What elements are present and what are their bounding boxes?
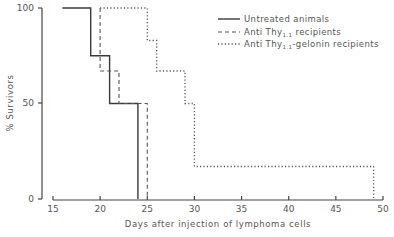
x-axis-title: Days after injection of lymphoma cells <box>125 219 311 229</box>
x-tick-50: 50 <box>377 204 389 214</box>
x-tick-40: 40 <box>283 204 295 214</box>
legend: Untreated animals Anti Thy1.1 recipients… <box>218 14 379 50</box>
y-tick-50: 50 <box>23 98 35 108</box>
x-axis: 1520253035404550 Days after injection of… <box>47 196 389 229</box>
legend-label-anti-thy-gelonin: Anti Thy1.1-gelonin recipients <box>244 39 379 50</box>
survival-chart: 100 50 0 % Survivors 1520253035404550 Da… <box>0 0 394 237</box>
y-axis-title: % Survivors <box>5 74 15 131</box>
legend-label-anti-thy: Anti Thy1.1 recipients <box>244 27 341 38</box>
x-tick-45: 45 <box>330 204 341 214</box>
x-tick-15: 15 <box>47 204 58 214</box>
x-tick-35: 35 <box>236 204 247 214</box>
y-axis: 100 50 0 % Survivors <box>5 3 42 204</box>
y-tick-0: 0 <box>28 194 34 204</box>
y-tick-100: 100 <box>17 3 34 13</box>
x-tick-25: 25 <box>142 204 153 214</box>
legend-label-untreated: Untreated animals <box>244 14 330 24</box>
x-tick-20: 20 <box>94 204 106 214</box>
x-tick-30: 30 <box>189 204 201 214</box>
series-anti-thy <box>100 8 147 199</box>
